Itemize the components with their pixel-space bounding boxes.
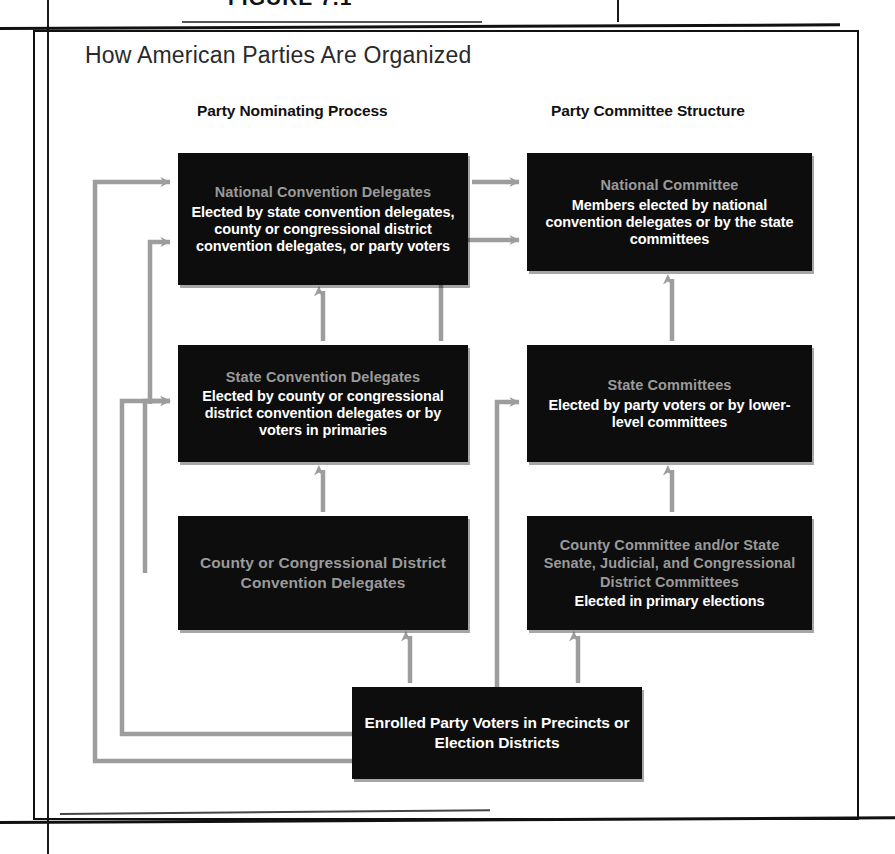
node-body: Elected by state convention delegates, c…	[186, 204, 460, 255]
node-body: Elected by party voters or by lower-leve…	[535, 397, 804, 431]
node-title: State Committees	[607, 376, 731, 395]
margin-tick-mark	[617, 0, 619, 22]
node-body: Elected in primary elections	[575, 593, 765, 610]
caption-underline-thin	[182, 21, 482, 23]
node-title: County Committee and/or State Senate, Ju…	[535, 536, 804, 592]
node-title: National Convention Delegates	[215, 183, 431, 202]
figure-title: How American Parties Are Organized	[85, 42, 471, 69]
figure-caption: FIGURE 7.1	[228, 0, 352, 10]
node-state-committees[interactable]: State CommitteesElected by party voters …	[527, 345, 812, 462]
node-title: National Committee	[601, 176, 739, 195]
column-header-nominating: Party Nominating Process	[197, 102, 388, 120]
node-title: County or Congressional District Convent…	[186, 553, 460, 593]
node-national-committee[interactable]: National CommitteeMembers elected by nat…	[527, 153, 812, 271]
node-title: State Convention Delegates	[226, 368, 420, 387]
figure-page: FIGURE 7.1 How American Parties Are Orga…	[0, 0, 895, 854]
node-county-committee-and-district-committees[interactable]: County Committee and/or State Senate, Ju…	[527, 516, 812, 630]
caption-underline-thick	[0, 23, 840, 30]
node-body: Enrolled Party Voters in Precincts or El…	[360, 713, 634, 753]
node-county-or-congressional-district-convention-delegates[interactable]: County or Congressional District Convent…	[178, 516, 468, 630]
node-body: Members elected by national convention d…	[535, 197, 804, 248]
node-national-convention-delegates[interactable]: National Convention DelegatesElected by …	[178, 153, 468, 285]
node-body: Elected by county or congressional distr…	[186, 388, 460, 439]
column-header-committee: Party Committee Structure	[551, 102, 745, 120]
node-state-convention-delegates[interactable]: State Convention DelegatesElected by cou…	[178, 345, 468, 462]
node-enrolled-party-voters[interactable]: Enrolled Party Voters in Precincts or El…	[352, 687, 642, 779]
